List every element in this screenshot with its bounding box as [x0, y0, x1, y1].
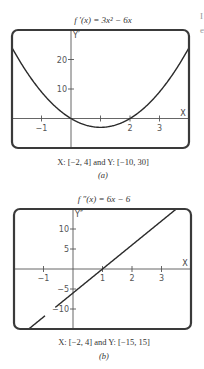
panel-a: f ′(x) = 3x² − 6x −1231020XY′ X: [−2, 4]…	[12, 15, 189, 180]
panel-b-caption: X: [−2, 4] and Y: [−15, 15]	[58, 337, 150, 347]
function-curve	[29, 316, 45, 329]
x-tick-label: 1	[100, 274, 105, 283]
y-tick-label: 10	[57, 85, 67, 94]
x-tick-label: 2	[129, 274, 134, 283]
panel-a-caption: X: [−2, 4] and Y: [−10, 30]	[57, 157, 149, 167]
edge-text-1: I	[200, 11, 203, 21]
y-tick-label: 20	[57, 56, 67, 65]
y-tick-label: −10	[52, 305, 69, 314]
function-curve	[12, 48, 189, 128]
y-tick-label: 5	[64, 245, 69, 254]
panel-a-label: (a)	[98, 170, 108, 180]
edge-text-2: e	[200, 25, 204, 35]
y-tick-label: −5	[57, 285, 69, 294]
panel-b: f ″(x) = 6x − 6 −1123−10−5510XY″ X: [−2,…	[14, 194, 191, 361]
x-tick-label: −1	[38, 274, 50, 283]
x-tick-label: 3	[157, 124, 162, 133]
y-axis-label: Y″	[74, 210, 83, 219]
figure: f ′(x) = 3x² − 6x −1231020XY′ X: [−2, 4]…	[0, 0, 204, 369]
x-axis-label: X	[180, 109, 186, 118]
y-axis-label: Y′	[72, 31, 80, 40]
x-tick-label: 3	[159, 274, 164, 283]
panel-a-title: f ′(x) = 3x² − 6x	[74, 15, 132, 25]
y-tick-label: 10	[59, 225, 69, 234]
panel-b-title: f ″(x) = 6x − 6	[78, 194, 131, 204]
x-tick-label: 2	[127, 124, 132, 133]
x-axis-label: X	[182, 259, 188, 268]
panel-b-label: (b)	[99, 351, 109, 361]
x-tick-label: −1	[36, 124, 48, 133]
